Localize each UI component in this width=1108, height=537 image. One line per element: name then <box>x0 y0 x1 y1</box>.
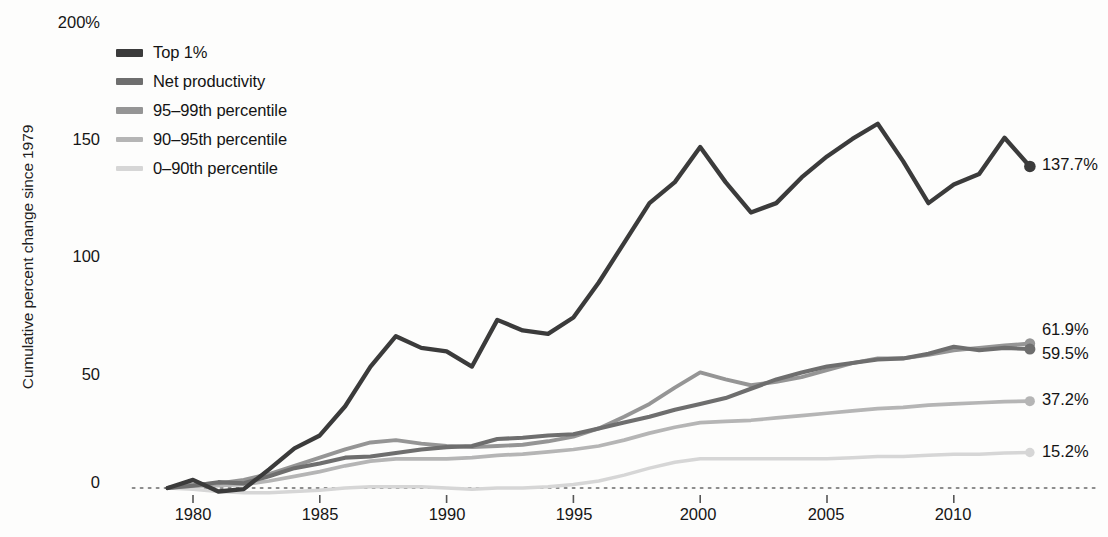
end-label-net-productivity: 59.5% <box>1042 344 1089 363</box>
end-label-0-90th: 15.2% <box>1042 442 1089 461</box>
legend-item-90-95th: 90–95th percentile <box>116 125 287 154</box>
series-line-3 <box>168 401 1030 488</box>
legend-label-90-95th: 90–95th percentile <box>153 130 287 149</box>
legend-item-95-99th: 95–99th percentile <box>116 96 287 125</box>
series-end-dot-4 <box>1025 448 1034 457</box>
series-line-1 <box>168 347 1030 488</box>
legend-item-net-productivity: Net productivity <box>116 67 287 96</box>
chart-container: Cumulative percent change since 1979 200… <box>0 0 1108 537</box>
series-end-dot-1 <box>1024 344 1035 355</box>
legend-item-0-90th: 0–90th percentile <box>116 154 287 183</box>
legend-swatch-top-1 <box>116 49 143 57</box>
legend-label-0-90th: 0–90th percentile <box>153 159 278 178</box>
series-end-dot-0 <box>1024 161 1036 173</box>
legend-swatch-0-90th <box>116 166 143 171</box>
legend-label-top-1: Top 1% <box>153 43 207 62</box>
series-end-dot-3 <box>1025 396 1035 406</box>
end-label-95-99th: 61.9% <box>1042 320 1089 339</box>
legend-label-95-99th: 95–99th percentile <box>153 101 287 120</box>
legend-swatch-net-productivity <box>116 78 143 85</box>
end-label-90-95th: 37.2% <box>1042 390 1089 409</box>
legend-swatch-95-99th <box>116 107 143 114</box>
end-label-top-1: 137.7% <box>1042 155 1098 174</box>
legend-item-top-1: Top 1% <box>116 38 287 67</box>
series-line-0 <box>168 124 1030 492</box>
series-line-4 <box>168 453 1030 493</box>
legend-label-net-productivity: Net productivity <box>153 72 265 91</box>
legend-swatch-90-95th <box>116 137 143 143</box>
chart-legend: Top 1% Net productivity 95–99th percenti… <box>116 38 287 183</box>
